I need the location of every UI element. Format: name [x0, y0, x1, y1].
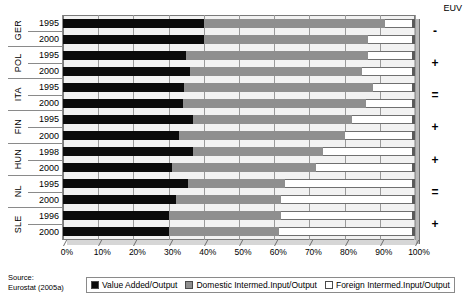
legend-swatch — [91, 281, 99, 289]
bar-end-cap — [412, 19, 415, 28]
year-label: 2000 — [30, 96, 59, 110]
year-label: 2000 — [30, 32, 59, 46]
gridline-100 — [415, 15, 416, 240]
year-label: 1996 — [30, 209, 59, 223]
axis-tick — [380, 240, 384, 246]
bar-end-cap — [412, 83, 415, 92]
axis-tick — [133, 240, 137, 246]
bar-segment — [63, 131, 179, 140]
year-label: 1995 — [30, 177, 59, 191]
category-axis: GER19952000POL19952000ITA19952000FIN1995… — [8, 15, 63, 240]
country-label: NL — [8, 176, 28, 207]
axis-tick-label: 60% — [270, 247, 287, 257]
bar-end-cap — [412, 163, 415, 172]
bar-segment — [193, 115, 351, 124]
bar-end-cap — [412, 211, 415, 220]
country-label: POL — [8, 47, 28, 78]
legend-label: Foreign Intermed.Input/Output — [336, 280, 450, 290]
bar-row — [63, 131, 415, 140]
bar-row — [63, 115, 415, 124]
category-group-sle: SLE19962000 — [8, 208, 62, 240]
year-label: 1995 — [30, 80, 59, 94]
bar-segment — [183, 99, 366, 108]
bar-end-cap — [412, 147, 415, 156]
legend-item: Value Added/Output — [91, 280, 177, 290]
legend-item: Foreign Intermed.Input/Output — [325, 280, 450, 290]
axis-tick — [345, 240, 349, 246]
axis-tick — [415, 240, 419, 246]
year-label: 2000 — [30, 129, 59, 143]
bar-row — [63, 163, 415, 172]
legend-swatch — [185, 281, 193, 289]
country-label: SLE — [8, 208, 28, 240]
source-line-2: Eurostat (2005a) — [8, 283, 64, 293]
bar-segment — [169, 211, 282, 220]
bar-segment — [323, 147, 415, 156]
bar-segment — [373, 83, 415, 92]
plot-area — [63, 15, 415, 240]
bar-row — [63, 227, 415, 236]
bar-row — [63, 35, 415, 44]
legend-swatch — [325, 281, 333, 289]
bar-segment — [63, 195, 176, 204]
euv-value-nl: = — [424, 176, 446, 208]
year-label: 2000 — [30, 193, 59, 207]
bar-rows — [63, 15, 415, 240]
stacked-bar-chart: EUV GER19952000POL19952000ITA19952000FIN… — [0, 0, 468, 301]
axis-tick-label: 20% — [129, 247, 146, 257]
euv-column-header: EUV — [443, 3, 462, 13]
year-label: 2000 — [30, 161, 59, 175]
bar-end-cap — [412, 99, 415, 108]
year-label: 1998 — [30, 145, 59, 159]
axis-tick-label: 0% — [61, 247, 73, 257]
bar-segment — [362, 67, 415, 76]
chart-legend: Value Added/OutputDomestic Intermed.Inpu… — [86, 277, 455, 293]
axis-tick — [169, 240, 173, 246]
axis-tick — [239, 240, 243, 246]
bar-segment — [63, 51, 186, 60]
axis-tick — [309, 240, 313, 246]
source-note: Source: Eurostat (2005a) — [8, 273, 64, 293]
bar-segment — [63, 147, 193, 156]
bar-end-cap — [412, 227, 415, 236]
year-label: 1995 — [30, 16, 59, 30]
year-label: 2000 — [30, 64, 59, 78]
axis-tick-label: 50% — [234, 247, 251, 257]
country-label: GER — [8, 15, 28, 46]
bar-segment — [172, 163, 316, 172]
bar-segment — [63, 19, 204, 28]
country-label: FIN — [8, 111, 28, 142]
bar-row — [63, 147, 415, 156]
axis-tick-label: 100% — [408, 247, 430, 257]
bar-segment — [204, 35, 368, 44]
bar-segment — [285, 179, 415, 188]
euv-value-sle: + — [424, 208, 446, 240]
bar-segment — [193, 147, 323, 156]
axis-tick-label: 70% — [305, 247, 322, 257]
bar-segment — [63, 83, 184, 92]
bar-segment — [188, 179, 285, 188]
axis-tick-label: 30% — [164, 247, 181, 257]
bar-segment — [316, 163, 415, 172]
bar-segment — [281, 195, 415, 204]
category-group-hun: HUN19982000 — [8, 144, 62, 176]
bar-segment — [352, 115, 415, 124]
bar-end-cap — [412, 35, 415, 44]
bar-row — [63, 67, 415, 76]
bar-segment — [186, 51, 368, 60]
bar-row — [63, 51, 415, 60]
source-line-1: Source: — [8, 273, 64, 283]
bar-segment — [345, 131, 415, 140]
category-group-fin: FIN19952000 — [8, 111, 62, 143]
euv-value-hun: + — [424, 144, 446, 176]
axis-tick-label: 80% — [340, 247, 357, 257]
bar-segment — [281, 211, 415, 220]
bar-segment — [279, 227, 415, 236]
axis-tick-label: 10% — [94, 247, 111, 257]
axis-tick — [274, 240, 278, 246]
bar-segment — [204, 19, 385, 28]
bar-segment — [63, 163, 172, 172]
bar-segment — [63, 67, 190, 76]
bar-segment — [63, 99, 183, 108]
euv-value-pol: + — [424, 47, 446, 79]
